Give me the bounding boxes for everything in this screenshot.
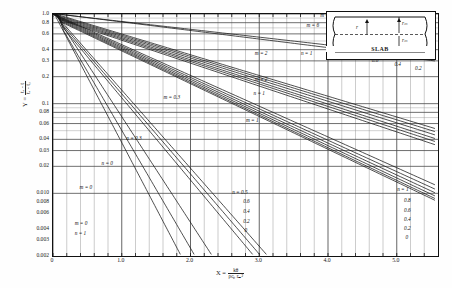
x-tick-label: 4.0: [323, 257, 330, 263]
y-tick-label: 0.008: [3, 198, 52, 204]
y-tick-label: 0.010: [3, 189, 52, 195]
x-tick-label: 3.0: [255, 257, 262, 263]
x-tick-label: 1.0: [117, 257, 124, 263]
y-tick-label: 0.006: [3, 209, 52, 215]
x-axis-title-prefix: X =: [216, 269, 226, 276]
y-tick-label: 0.3: [3, 57, 52, 63]
y-tick-label: 0.8: [3, 19, 52, 25]
y-axis-tick-labels: 1.00.80.60.40.30.20.10.080.060.040.030.0…: [0, 0, 52, 288]
heisler-chart-figure: 1.00.80.60.40.30.20.10.080.060.040.030.0…: [0, 0, 452, 288]
y-axis-fraction: tₐ - t tₐ - t₀: [20, 81, 32, 95]
y-tick-label: 0.002: [3, 252, 52, 258]
slab-label-rm-mid: rₘ: [402, 38, 407, 44]
slab-inset-diagram: r rₘ rₘ: [326, 11, 436, 60]
y-tick-label: 0.6: [3, 30, 52, 36]
x-tick-label: 2.0: [186, 257, 193, 263]
y-tick-label: 0.03: [3, 147, 52, 153]
y-tick-label: 0.003: [3, 236, 52, 242]
y-axis-denominator: tₐ - t₀: [27, 81, 32, 95]
x-axis-fraction: kθ ρcₚ rₘ²: [228, 268, 244, 280]
x-tick-label: 0: [51, 257, 54, 263]
x-tick-label: 5.0: [392, 257, 399, 263]
y-tick-label: 0.04: [3, 135, 52, 141]
slab-label-rm-top: rₘ: [402, 21, 407, 27]
x-axis-title: X = kθ ρcₚ rₘ²: [150, 268, 310, 280]
x-axis-denominator: ρcₚ rₘ²: [228, 274, 244, 279]
y-axis-title-prefix: Y =: [21, 97, 28, 107]
y-tick-label: 0.02: [3, 162, 52, 168]
y-tick-label: 0.004: [3, 225, 52, 231]
y-tick-label: 1.0: [3, 10, 52, 16]
y-axis-title: Y = tₐ - t tₐ - t₀: [20, 64, 32, 124]
slab-inset-caption: SLAB: [326, 46, 434, 52]
y-tick-label: 0.4: [3, 46, 52, 52]
slab-label-r: r: [356, 25, 358, 31]
